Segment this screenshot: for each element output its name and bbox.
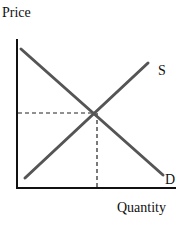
demand-label: D — [165, 172, 175, 188]
supply-label: S — [158, 63, 166, 79]
supply-curve — [25, 63, 148, 178]
diagram-canvas — [0, 0, 181, 230]
supply-demand-diagram: Price S D Quantity — [0, 0, 181, 230]
x-axis-label: Quantity — [117, 200, 166, 216]
y-axis-label: Price — [2, 5, 31, 21]
